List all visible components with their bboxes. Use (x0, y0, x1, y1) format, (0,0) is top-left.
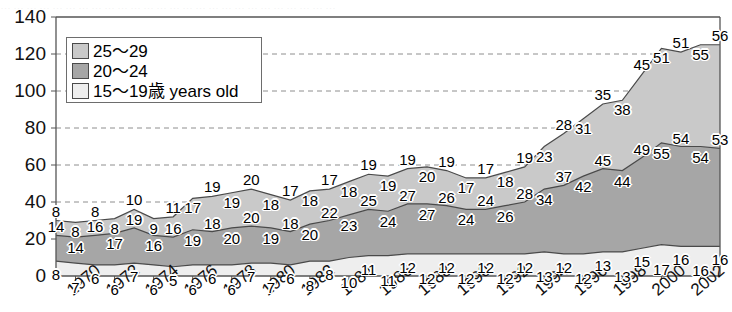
label-15-19-1992: 12 (497, 269, 514, 286)
label-25-29-1992: 18 (497, 173, 514, 190)
label-20-24-1999: 49 (634, 140, 651, 157)
label-25-29-1974: 9 (149, 219, 157, 236)
label-20-24-1972: 17 (106, 235, 123, 252)
label-15-19-1981: 6 (286, 269, 294, 286)
label-15-19-1973: 7 (130, 268, 138, 285)
label-25-29-1984: 18 (341, 182, 358, 199)
label-20-24-2000: 55 (653, 144, 670, 161)
label-20-24-1969: 14 (48, 218, 65, 235)
label-25-29-1975: 11 (165, 198, 181, 215)
label-25-29-2002: 55 (692, 45, 709, 62)
label-25-29-1994: 23 (536, 147, 553, 164)
chart-legend: 25～29 20～24 15～19歳 years old (66, 37, 262, 103)
label-15-19-1971: 6 (91, 269, 99, 286)
label-20-24-1995: 37 (555, 168, 572, 185)
label-15-19-1975: 5 (169, 271, 177, 288)
label-25-29-1983: 17 (321, 171, 338, 188)
y-tick-80: 80 (0, 118, 46, 137)
label-20-24-1983: 22 (321, 203, 338, 220)
label-15-19-1987: 12 (399, 258, 416, 275)
y-tick-60: 60 (0, 155, 46, 174)
label-25-29-1971: 8 (91, 202, 99, 219)
label-20-24-1979: 20 (243, 209, 260, 226)
legend-label-25-29: 25～29 (93, 43, 148, 60)
label-25-29-1970: 8 (71, 223, 79, 240)
y-tick-40: 40 (0, 192, 46, 211)
label-20-24-1996: 42 (575, 178, 592, 195)
label-15-19-1983: 8 (325, 266, 333, 283)
label-25-29-1998: 38 (614, 101, 631, 118)
label-15-19-2002: 16 (692, 262, 709, 279)
label-20-24-1973: 19 (126, 210, 143, 227)
label-15-19-1980: 7 (267, 279, 275, 296)
label-25-29-1985: 19 (360, 156, 377, 173)
label-20-24-1986: 24 (380, 213, 397, 230)
label-20-24-1989: 26 (438, 188, 455, 205)
label-20-24-1985: 25 (360, 192, 377, 209)
label-25-29-1980: 18 (262, 195, 279, 212)
label-20-24-1978: 20 (223, 229, 240, 246)
label-15-19-2001: 16 (673, 251, 690, 268)
legend-item-20-24: 20～24 (72, 61, 257, 81)
label-15-19-1991: 12 (477, 258, 494, 275)
label-20-24-1977: 18 (204, 214, 221, 231)
label-15-19-1993: 12 (516, 258, 533, 275)
label-25-29-1972: 8 (110, 219, 118, 236)
label-15-19-1977: 6 (208, 269, 216, 286)
label-15-19-1978: 6 (228, 280, 236, 297)
label-25-29-1995: 28 (555, 115, 572, 132)
label-25-29-1989: 19 (438, 152, 455, 169)
label-25-29-1979: 20 (243, 171, 260, 188)
label-20-24-1997: 45 (594, 151, 611, 168)
label-25-29-1987: 19 (399, 150, 416, 167)
label-15-19-1969: 8 (52, 266, 60, 283)
legend-label-20-24: 20～24 (93, 63, 148, 80)
label-15-19-1974: 6 (149, 280, 157, 297)
label-20-24-1976: 19 (184, 231, 201, 248)
label-15-19-2000: 17 (653, 260, 670, 277)
y-tick-120: 120 (0, 44, 46, 63)
label-20-24-1991: 24 (477, 192, 494, 209)
chart-root: …………………………………………………………………… 0204060801001… (0, 0, 732, 312)
label-25-29-1996: 31 (575, 119, 592, 136)
label-25-29-1999: 45 (634, 56, 651, 73)
label-20-24-1970: 14 (67, 239, 84, 256)
label-20-24-1988: 27 (419, 205, 436, 222)
label-25-29-1990: 17 (458, 178, 475, 195)
label-20-24-1975: 16 (165, 220, 182, 237)
label-15-19-1984: 10 (341, 273, 358, 290)
label-25-29-1993: 19 (516, 148, 533, 165)
label-15-19-1994: 13 (536, 267, 553, 284)
legend-swatch-15-19 (72, 83, 89, 99)
label-20-24-1994: 34 (536, 191, 553, 208)
label-20-24-1974: 16 (145, 237, 162, 254)
label-20-24-1971: 16 (87, 218, 104, 235)
y-tick-0: 0 (0, 266, 46, 285)
y-tick-140: 140 (0, 7, 46, 26)
label-20-24-1980: 19 (262, 229, 279, 246)
label-15-19-1999: 15 (634, 253, 651, 270)
label-20-24-1984: 23 (341, 216, 358, 233)
label-15-19-1982: 8 (306, 277, 314, 294)
label-25-29-1969: 8 (52, 202, 60, 219)
label-15-19-1979: 7 (247, 268, 255, 285)
label-20-24-2002: 54 (692, 148, 709, 165)
label-15-19-1989: 12 (438, 258, 455, 275)
label-25-29-1973: 10 (126, 191, 143, 208)
legend-swatch-25-29 (72, 43, 89, 59)
label-20-24-1990: 24 (458, 211, 475, 228)
legend-item-15-19: 15～19歳 years old (72, 81, 257, 101)
label-20-24-2001: 54 (673, 129, 690, 146)
label-15-19-1970: 7 (71, 279, 79, 296)
label-20-24-1993: 28 (516, 185, 533, 202)
label-25-29-1976: 17 (184, 199, 201, 216)
y-tick-20: 20 (0, 229, 46, 248)
legend-label-15-19: 15～19歳 years old (93, 83, 239, 100)
label-15-19-1988: 12 (419, 269, 436, 286)
label-25-29-1982: 18 (302, 191, 319, 208)
legend-swatch-20-24 (72, 63, 89, 79)
label-15-19-1997: 13 (594, 256, 611, 273)
label-25-29-1981: 17 (282, 182, 299, 199)
label-15-19-1990: 12 (458, 269, 475, 286)
label-25-29-1991: 17 (477, 159, 494, 176)
